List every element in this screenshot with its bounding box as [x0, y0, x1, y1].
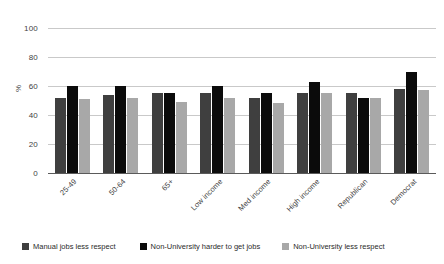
bar-groups: [48, 28, 436, 173]
bar: [176, 102, 187, 173]
bar: [370, 98, 381, 173]
bar: [115, 86, 126, 173]
bar: [67, 86, 78, 173]
bar: [103, 95, 114, 173]
bar-group: [291, 28, 340, 173]
bar-group: [145, 28, 194, 173]
y-axis-tick-label: 80: [29, 53, 38, 62]
x-axis-tick-slot: Republican: [339, 175, 388, 233]
bar: [321, 93, 332, 173]
y-axis-tick-label: 40: [29, 111, 38, 120]
x-axis-tick-label: Med income: [237, 177, 273, 213]
bar-group: [48, 28, 97, 173]
bar: [212, 86, 223, 173]
bar: [418, 90, 429, 173]
chart-legend: Manual jobs less respectNon-University h…: [22, 243, 432, 251]
y-axis-tick-label: 100: [24, 24, 38, 33]
bar: [406, 72, 417, 174]
legend-item[interactable]: Non-University harder to get jobs: [140, 243, 261, 251]
x-axis-tick-label: 50-64: [107, 177, 127, 197]
bar: [164, 93, 175, 173]
bar-group: [97, 28, 146, 173]
x-axis-tick-label: 65+: [160, 177, 176, 193]
x-axis-tick-label: High income: [284, 177, 321, 214]
legend-item-label: Non-University harder to get jobs: [151, 243, 261, 251]
x-axis-tick-slot: Low income: [194, 175, 243, 233]
x-axis-tick-label: Republican: [336, 177, 370, 211]
bar: [55, 98, 66, 173]
x-axis-tick-slot: 65+: [145, 175, 194, 233]
y-axis-tick-label: 0: [33, 169, 38, 178]
y-axis-tick-label: 60: [29, 82, 38, 91]
y-axis-tick-label: 20: [29, 140, 38, 149]
legend-swatch-icon: [282, 243, 289, 250]
legend-swatch-icon: [140, 243, 147, 250]
bar: [127, 98, 138, 173]
x-axis-tick-label: Low income: [189, 177, 224, 212]
x-axis-tick-labels: 25-4950-6465+Low incomeMed incomeHigh in…: [48, 175, 436, 233]
x-axis-tick-slot: 25-49: [48, 175, 97, 233]
bar: [79, 99, 90, 173]
x-axis-tick-label: 25-49: [58, 177, 78, 197]
x-axis-tick-slot: Med income: [242, 175, 291, 233]
bar-group: [388, 28, 437, 173]
legend-item-label: Manual jobs less respect: [33, 243, 116, 251]
bar: [358, 98, 369, 173]
legend-swatch-icon: [22, 243, 29, 250]
bar-group: [242, 28, 291, 173]
legend-item-label: Non-University less respect: [293, 243, 384, 251]
legend-item[interactable]: Manual jobs less respect: [22, 243, 116, 251]
bar-group: [339, 28, 388, 173]
bar: [200, 93, 211, 173]
bar: [346, 93, 357, 173]
bar-chart: 100806040200 % 25-4950-6465+Low incomeMe…: [0, 0, 444, 264]
legend-item[interactable]: Non-University less respect: [282, 243, 384, 251]
bar: [152, 93, 163, 173]
x-axis-tick-slot: Democrat: [388, 175, 437, 233]
bar: [297, 93, 308, 173]
bar: [394, 89, 405, 173]
bar: [273, 103, 284, 173]
x-axis-tick-slot: High income: [291, 175, 340, 233]
bar-group: [194, 28, 243, 173]
x-axis-tick-label: Democrat: [388, 177, 418, 207]
bar: [261, 93, 272, 173]
bar: [224, 98, 235, 173]
y-axis-title: %: [14, 85, 23, 92]
y-axis-tick-labels: 100806040200: [0, 28, 44, 173]
bar: [249, 98, 260, 173]
x-axis-tick-slot: 50-64: [97, 175, 146, 233]
x-axis-line: [48, 173, 436, 174]
bar: [309, 82, 320, 173]
